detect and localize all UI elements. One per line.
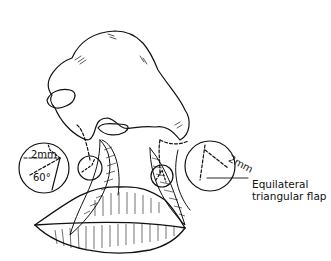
right-lip-flap2 <box>176 150 190 210</box>
surgical-illustration <box>0 0 331 261</box>
right-lip-flap <box>150 148 185 225</box>
right-detail-circle <box>185 141 235 191</box>
callout-line-1: Equilateral <box>252 178 326 190</box>
flap-callout-label: Equilateral triangular flap <box>252 178 326 202</box>
left-angle-label: 60° <box>33 172 51 183</box>
left-measure-label: 2mm <box>31 149 57 160</box>
nostril-right <box>98 124 128 135</box>
callout-line-2: triangular flap <box>252 190 326 202</box>
